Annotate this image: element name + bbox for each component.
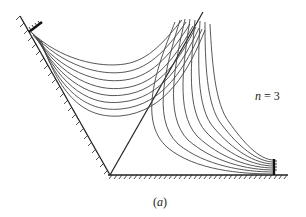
parameter-equals: = [261,89,274,103]
left-wall [16,16,110,175]
flow-diagram [0,0,306,217]
parameter-value: 3 [274,89,280,103]
left-curve-family [30,20,205,116]
right-sink-stack [274,159,277,175]
bottom-wall [108,175,288,179]
figure-caption: (a) [153,195,167,210]
diagonal-line [110,12,203,175]
caption-close-paren: ) [163,195,167,209]
parameter-label: n = 3 [255,89,280,104]
left-source-stack [29,21,42,32]
